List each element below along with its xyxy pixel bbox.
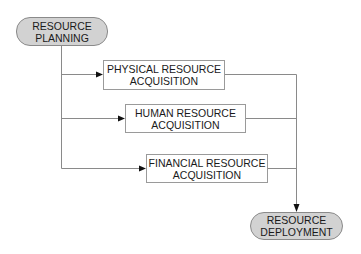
node-label-line2: ACQUISITION [151, 119, 219, 131]
resource-planning-node: RESOURCE PLANNING [16, 17, 108, 46]
node-label-line2: DEPLOYMENT [260, 226, 332, 238]
node-label-line1: HUMAN RESOURCE [135, 107, 236, 119]
node-label-line1: PHYSICAL RESOURCE [107, 63, 221, 75]
node-label-line2: ACQUISITION [130, 75, 198, 87]
arrowhead-financial-icon [139, 166, 146, 172]
physical-resource-acquisition-node: PHYSICAL RESOURCE ACQUISITION [103, 60, 225, 90]
node-label-line2: ACQUISITION [173, 169, 241, 181]
node-label-line1: FINANCIAL RESOURCE [149, 157, 266, 169]
flowchart-canvas: RESOURCE PLANNING PHYSICAL RESOURCE ACQU… [0, 0, 361, 254]
arrowhead-physical-icon [96, 72, 103, 78]
human-resource-acquisition-node: HUMAN RESOURCE ACQUISITION [125, 104, 246, 133]
financial-resource-acquisition-node: FINANCIAL RESOURCE ACQUISITION [146, 154, 268, 183]
node-label-line1: RESOURCE [32, 20, 92, 32]
node-label-line2: PLANNING [35, 32, 89, 44]
resource-deployment-node: RESOURCE DEPLOYMENT [250, 212, 343, 240]
arrowhead-human-icon [118, 116, 125, 122]
node-label-line1: RESOURCE [267, 214, 327, 226]
arrowhead-deployment-icon [294, 204, 300, 212]
